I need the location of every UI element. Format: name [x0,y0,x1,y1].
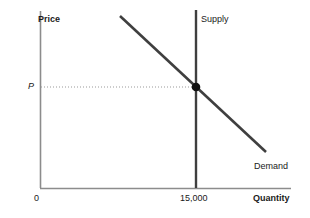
x-tick-label-15000: 15,000 [180,193,208,204]
y-tick-label-price: P [28,81,34,92]
supply-curve-label: Supply [201,14,229,25]
equilibrium-point-marker [192,83,201,92]
chart-canvas [0,0,310,218]
origin-label: 0 [34,193,39,204]
y-axis-title: Price [38,14,60,25]
demand-curve-label: Demand [254,161,288,172]
supply-demand-chart: Price Quantity 0 15,000 P Supply Demand [0,0,310,218]
x-axis-title: Quantity [253,193,290,204]
